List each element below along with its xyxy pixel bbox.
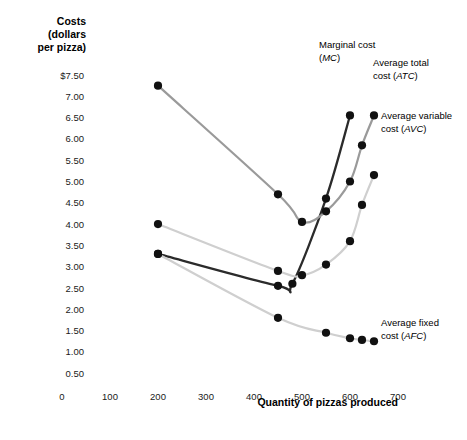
data-point-avc xyxy=(358,201,366,209)
label-afc-line-2: cost (AFC) xyxy=(381,330,426,341)
y-axis-tick-labels: $7.507.006.506.005.505.004.504.003.503.0… xyxy=(60,70,84,379)
y-tick-label: 4.50 xyxy=(66,197,85,208)
data-point-mc xyxy=(288,280,296,288)
curve-annotations: Marginal cost(MC)Average totalcost (ATC)… xyxy=(319,39,452,341)
series-markers xyxy=(154,82,378,346)
y-tick-label: 7.00 xyxy=(66,91,85,102)
label-mc-line-2: (MC) xyxy=(319,52,340,63)
y-tick-label: 3.50 xyxy=(66,240,85,251)
data-point-atc xyxy=(370,111,378,119)
label-mc-line-1: Marginal cost xyxy=(319,39,376,50)
label-atc-line-1: Average total xyxy=(373,57,429,68)
data-point-afc xyxy=(346,334,354,342)
data-point-atc xyxy=(322,207,330,215)
y-tick-label: $7.50 xyxy=(60,70,84,81)
y-tick-label: 2.50 xyxy=(66,283,85,294)
x-tick-label: 100 xyxy=(102,391,118,402)
x-tick-label: 300 xyxy=(198,391,214,402)
data-point-atc xyxy=(154,82,162,90)
data-point-avc xyxy=(322,260,330,268)
x-axis-title: Quantity of pizzas produced xyxy=(257,396,398,408)
series-curves xyxy=(158,86,374,342)
data-point-atc xyxy=(298,218,306,226)
data-point-atc xyxy=(274,190,282,198)
y-tick-label: 5.00 xyxy=(66,176,85,187)
data-point-avc xyxy=(370,171,378,179)
data-point-afc xyxy=(274,314,282,322)
data-point-atc xyxy=(346,177,354,185)
label-avc-line-1: Average variable xyxy=(381,110,452,121)
y-tick-label: 1.50 xyxy=(66,325,85,336)
x-tick-label: 200 xyxy=(150,391,166,402)
curve-atc xyxy=(158,86,374,223)
y-axis-title-line-2: (dollars xyxy=(48,28,86,40)
y-axis-title-line-3: per pizza) xyxy=(38,41,86,53)
data-point-avc xyxy=(274,267,282,275)
data-point-afc xyxy=(358,336,366,344)
y-tick-label: 6.50 xyxy=(66,112,85,123)
y-tick-label: 1.00 xyxy=(66,346,85,357)
x-tick-label: 0 xyxy=(59,391,64,402)
data-point-mc xyxy=(274,282,282,290)
data-point-avc xyxy=(346,237,354,245)
cost-curves-chart: Costs (dollars per pizza) $7.507.006.506… xyxy=(0,0,467,440)
y-tick-label: 5.50 xyxy=(66,155,85,166)
y-tick-label: 6.00 xyxy=(66,133,85,144)
data-point-atc xyxy=(358,141,366,149)
curve-mc xyxy=(158,115,350,292)
y-tick-label: 4.00 xyxy=(66,219,85,230)
data-point-mc xyxy=(346,111,354,119)
y-tick-label: 0.50 xyxy=(66,368,85,379)
data-point-afc xyxy=(154,250,162,258)
label-atc-line-2: cost (ATC) xyxy=(373,70,418,81)
data-point-afc xyxy=(370,337,378,345)
y-tick-label: 3.00 xyxy=(66,261,85,272)
chart-canvas: Costs (dollars per pizza) $7.507.006.506… xyxy=(0,0,467,440)
data-point-avc xyxy=(298,271,306,279)
curve-avc xyxy=(158,175,374,277)
data-point-afc xyxy=(322,329,330,337)
y-axis-title-line-1: Costs xyxy=(57,15,86,27)
label-avc-line-2: cost (AVC) xyxy=(381,123,426,134)
y-tick-label: 2.00 xyxy=(66,304,85,315)
label-afc-line-1: Average fixed xyxy=(381,317,439,328)
data-point-mc xyxy=(322,194,330,202)
data-point-avc xyxy=(154,220,162,228)
